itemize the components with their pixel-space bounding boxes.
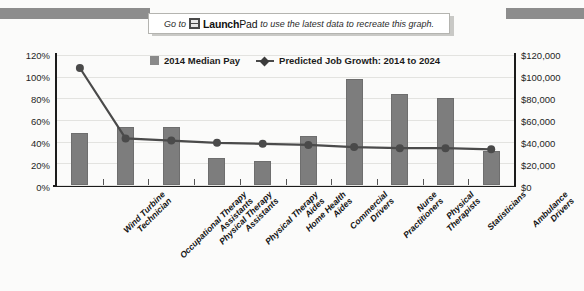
line-data-point	[350, 143, 358, 151]
y-left-tick-2: 40%	[8, 138, 50, 149]
line-data-point	[167, 137, 175, 145]
y-left-tick-6: 120%	[8, 50, 50, 61]
ribbon-label-box[interactable]: Go to LaunchPad to use the latest data t…	[148, 13, 450, 34]
y-right-tick-3: $60,000	[521, 116, 581, 127]
brand-bold-text: Launch	[203, 18, 239, 30]
launchpad-brand: LaunchPad	[203, 18, 257, 30]
brand-light-text: Pad	[239, 18, 257, 30]
y-right-tick-6: $120,000	[521, 50, 581, 61]
x-category-label: AmbulanceDrivers	[531, 190, 577, 236]
x-category-label: CommercialDrivers	[349, 190, 397, 238]
y-right-tick-4: $80,000	[521, 94, 581, 105]
banner-prefix-text: Go to	[164, 19, 186, 29]
y-right-tick-2: $40,000	[521, 138, 581, 149]
line-data-point	[304, 141, 312, 149]
y-left-tick-1: 20%	[8, 160, 50, 171]
line-data-point	[396, 144, 404, 152]
y-left-tick-4: 80%	[8, 94, 50, 105]
line-data-point	[213, 139, 221, 147]
gridline	[57, 185, 514, 186]
line-series	[57, 55, 514, 185]
axis-line-right	[514, 53, 516, 187]
y-right-tick-5: $100,000	[521, 72, 581, 83]
launchpad-banner[interactable]: Go to LaunchPad to use the latest data t…	[0, 4, 584, 40]
line-data-point	[487, 145, 495, 153]
x-category-label: Wind TurbineTechnician	[122, 190, 174, 242]
ribbon-tail-left	[0, 8, 150, 19]
y-left-tick-5: 100%	[8, 72, 50, 83]
y-left-tick-3: 60%	[8, 116, 50, 127]
x-axis-category-labels: Wind TurbineTechnicianOccupational Thera…	[0, 188, 584, 283]
launchpad-image-icon	[189, 18, 200, 29]
line-data-point	[259, 140, 267, 148]
line-path	[80, 68, 491, 149]
x-category-label: Statisticians	[486, 190, 528, 232]
ribbon-tail-right	[506, 8, 584, 19]
x-category-label: PhysicalTherapists	[438, 190, 482, 234]
chart-figure: Go to LaunchPad to use the latest data t…	[0, 0, 584, 291]
line-data-point	[442, 144, 450, 152]
line-data-point	[76, 64, 84, 72]
banner-suffix-text: to use the latest data to recreate this …	[260, 19, 434, 29]
y-right-tick-1: $20,000	[521, 160, 581, 171]
line-data-point	[122, 134, 130, 142]
plot-area	[57, 55, 514, 185]
x-category-label: NursePractitioners	[395, 190, 445, 240]
